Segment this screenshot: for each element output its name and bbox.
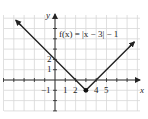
- x-tick-4: 4: [94, 85, 99, 95]
- vertex-point: [84, 88, 89, 93]
- x-tick-1: 1: [63, 85, 68, 95]
- function-graph: y x f(x) = |x − 3| − 1 2 1 −1 1 2 4 5: [0, 0, 148, 119]
- left-arrow: [16, 20, 21, 25]
- y-tick-1: 1: [47, 64, 52, 74]
- y-axis-label: y: [45, 10, 50, 20]
- x-tick-2: 2: [73, 85, 78, 95]
- right-arrow: [129, 42, 134, 47]
- y-tick-neg1: −1: [41, 85, 51, 95]
- function-label: f(x) = |x − 3| − 1: [59, 29, 118, 39]
- x-tick-5: 5: [104, 85, 109, 95]
- x-axis-label: x: [139, 85, 144, 95]
- y-tick-2: 2: [47, 54, 52, 64]
